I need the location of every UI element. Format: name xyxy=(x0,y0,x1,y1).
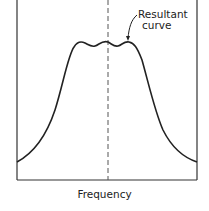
x-axis-label: Frequency xyxy=(0,189,209,200)
annotation-arrowhead-icon xyxy=(126,36,130,41)
resultant-curve xyxy=(17,42,197,162)
annotation-leader-line xyxy=(128,15,137,38)
response-diagram xyxy=(0,0,209,211)
annotation-label-line2: curve xyxy=(142,20,171,31)
